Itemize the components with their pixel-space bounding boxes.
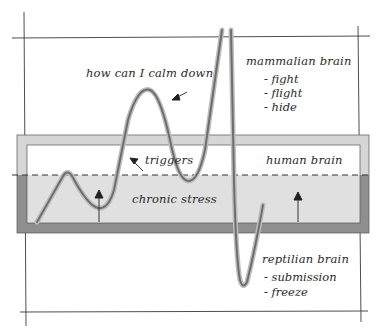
brain-stress-diagram [0, 0, 383, 336]
top-frame-line [12, 36, 370, 38]
reptilian-brain-heading: reptilian brain [262, 252, 349, 266]
bottom-frame-line [20, 311, 368, 312]
calm-question-label: how can I calm down [86, 66, 213, 80]
mammalian-item-fight: - fight [264, 72, 299, 86]
chronic-stress-label: chronic stress [132, 192, 217, 206]
human-brain-box [12, 135, 372, 233]
triggers-label: triggers [145, 153, 193, 167]
reptilian-item-freeze: - freeze [264, 285, 308, 299]
mammalian-item-hide: - hide [264, 100, 297, 114]
mammalian-brain-heading: mammalian brain [246, 54, 352, 68]
arrow-head-icon [172, 94, 180, 100]
mammalian-item-flight: - flight [264, 86, 302, 100]
human-brain-label: human brain [266, 153, 343, 167]
reptilian-item-submission: - submission [264, 270, 337, 284]
